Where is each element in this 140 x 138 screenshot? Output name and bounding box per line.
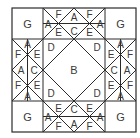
center-label-corner-tr: D [93,42,100,53]
left-label-left-mid: A [18,65,25,76]
left-label-right-top: E [34,49,41,60]
right-label-left-top: E [108,49,115,60]
bottom-label-bottom-mid: A [71,119,78,130]
corner-label-bottom-left: G [23,111,32,123]
corner-label-top-right: G [116,18,125,30]
left-label-left-top: F [15,49,21,60]
bottom-label-right: A [97,112,104,123]
right-label-top: A [117,39,124,50]
bottom-label-bottom-left: F [55,121,61,132]
corner-label-top-left: G [23,18,32,30]
top-label-top-right: F [86,9,92,20]
left-label-left-bottom: F [15,80,21,91]
center-label-corner-bl: D [47,88,54,99]
right-label-right-mid: A [124,65,131,76]
center-label-corner-tl: D [47,42,54,53]
left-label-top: A [24,39,31,50]
right-label-left-mid: C [110,65,117,76]
right-label-right-top: F [127,49,133,60]
top-label-right: A [97,19,104,30]
top-label-left: A [45,19,52,30]
right-label-bottom: A [117,91,124,102]
bottom-label-left: A [45,112,52,123]
bottom-label-top-right: E [86,103,93,114]
left-label-bottom: A [24,91,31,102]
left-label-right-bottom: E [34,80,41,91]
bottom-label-top-mid: C [70,104,77,115]
top-label-bottom-mid: C [70,26,77,37]
top-label-top-mid: A [71,12,78,23]
top-label-bottom-right: E [86,27,93,38]
center-label-corner-br: D [93,88,100,99]
bottom-label-bottom-right: F [86,121,92,132]
quilt-block-diagram: G G G G B D D D D A F E A C F E A A E F … [0,0,140,138]
right-label-left-bottom: E [108,80,115,91]
corner-label-bottom-right: G [116,111,125,123]
left-label-right-mid: C [30,65,37,76]
top-label-bottom-left: E [55,27,62,38]
center-label-diamond: B [70,64,77,76]
right-label-right-bottom: F [127,80,133,91]
top-label-top-left: F [55,9,61,20]
bottom-label-top-left: E [55,103,62,114]
